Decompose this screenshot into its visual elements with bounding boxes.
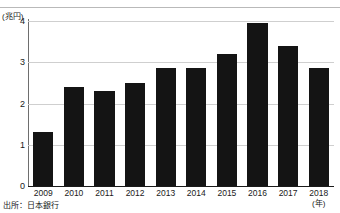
y-tick-label: 2 [3, 100, 25, 109]
gridline [28, 21, 334, 22]
bar [125, 83, 145, 186]
chart-figure: (兆円) 01234 20092010201120122013201420152… [0, 0, 340, 213]
bar [278, 46, 298, 186]
x-axis-unit-label: (年) [303, 197, 334, 208]
x-axis-line [28, 186, 334, 187]
bar [309, 68, 329, 186]
x-tick-label: 2016 [242, 188, 273, 198]
plot-area [28, 21, 334, 186]
y-axis-tick-labels: 01234 [0, 0, 25, 213]
bar [217, 54, 237, 186]
x-tick-label: 2009 [28, 188, 59, 198]
bar [156, 68, 176, 186]
y-tick-label: 1 [3, 141, 25, 150]
x-tick-label: 2015 [212, 188, 243, 198]
x-axis-tick-labels: 2009201020112012201320142015201620172018 [28, 188, 334, 200]
x-tick-label: 2017 [273, 188, 304, 198]
bar [186, 68, 206, 186]
bar [247, 23, 267, 186]
bar [64, 87, 84, 186]
y-tick-label: 3 [3, 58, 25, 67]
y-tick-label: 0 [3, 182, 25, 191]
bar [33, 132, 53, 186]
bar [94, 91, 114, 186]
source-note: 出所：日本銀行 [3, 199, 59, 210]
y-tick-label: 4 [3, 17, 25, 26]
x-tick-label: 2013 [150, 188, 181, 198]
x-tick-label: 2010 [59, 188, 90, 198]
x-tick-label: 2014 [181, 188, 212, 198]
x-tick-label: 2012 [120, 188, 151, 198]
top-divider [0, 7, 340, 8]
x-tick-label: 2011 [89, 188, 120, 198]
